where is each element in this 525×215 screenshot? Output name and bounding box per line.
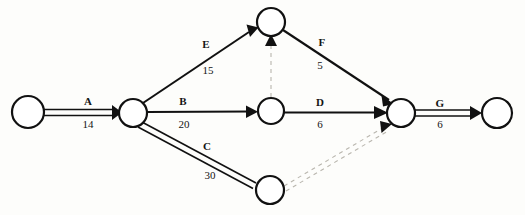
merge-node[interactable] xyxy=(387,99,415,127)
edge-b[interactable] xyxy=(147,106,258,119)
edge-c[interactable] xyxy=(138,122,256,189)
activity-d-label: D xyxy=(316,96,324,108)
edge-c-line-upper xyxy=(141,122,256,184)
dummy-bottom-to-merge-line-upper xyxy=(284,126,386,186)
activity-e-duration: 15 xyxy=(203,64,214,76)
activity-a-label: A xyxy=(84,95,92,107)
activity-f-duration: 5 xyxy=(317,59,323,71)
network-diagram-canvas xyxy=(0,0,525,215)
activity-g-duration: 6 xyxy=(437,118,443,130)
node-after-a[interactable] xyxy=(119,99,147,127)
activity-d-duration: 6 xyxy=(317,118,323,130)
finish-node[interactable] xyxy=(482,98,512,128)
edge-e-line xyxy=(143,32,249,103)
edge-c-line-lower xyxy=(138,127,253,189)
activity-g-label: G xyxy=(436,97,445,109)
edge-e[interactable] xyxy=(143,25,259,104)
activity-a-duration: 14 xyxy=(83,118,94,130)
start-node[interactable] xyxy=(12,96,44,128)
activity-b-duration: 20 xyxy=(179,118,190,130)
edge-b-line xyxy=(147,112,250,113)
dummy-middle-to-top[interactable] xyxy=(265,34,277,97)
edge-f-line xyxy=(283,30,389,100)
dummy-bottom-to-merge-line-lower xyxy=(286,131,388,191)
edge-b-arrowhead xyxy=(246,106,258,119)
dummy-bottom-to-merge[interactable] xyxy=(284,121,392,191)
edge-g[interactable] xyxy=(415,106,482,120)
activity-f-label: F xyxy=(319,36,326,48)
network-diagram: A 14 E 15 B 20 C 30 F 5 D 6 G 6 xyxy=(0,0,525,215)
edge-f[interactable] xyxy=(283,30,394,107)
edge-d[interactable] xyxy=(284,106,388,119)
activity-c-label: C xyxy=(203,140,211,152)
activity-b-label: B xyxy=(179,95,187,107)
bottom-node[interactable] xyxy=(256,176,284,204)
edge-d-arrowhead xyxy=(374,106,388,119)
activity-c-duration: 30 xyxy=(205,169,216,181)
activity-e-label: E xyxy=(202,38,210,50)
edge-g-arrowhead xyxy=(470,106,482,120)
middle-node[interactable] xyxy=(258,98,284,124)
top-node[interactable] xyxy=(257,8,285,36)
